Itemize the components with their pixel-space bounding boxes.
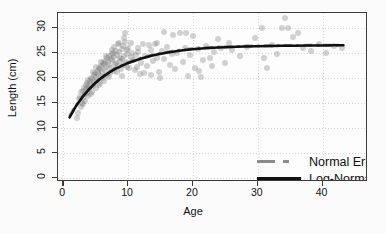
x-tick-label: 0 xyxy=(50,186,74,198)
curve-log-normal-errors xyxy=(70,45,344,117)
x-tick-label: 40 xyxy=(310,186,334,198)
legend: Normal Errors Log-Normal Errors xyxy=(257,153,367,181)
legend-item-normal-errors: Normal Errors xyxy=(257,153,367,170)
legend-key-dash-dot-icon xyxy=(257,156,301,168)
legend-label-normal-errors: Normal Errors xyxy=(309,155,367,169)
curve-normal-errors xyxy=(70,45,344,116)
x-tick-label: 20 xyxy=(180,186,204,198)
legend-key-solid-icon xyxy=(257,173,301,182)
x-tick-label: 10 xyxy=(115,186,139,198)
y-tick-label: 20 xyxy=(35,69,47,83)
y-tick-label: 10 xyxy=(35,119,47,133)
plot-area: Normal Errors Log-Normal Errors xyxy=(57,12,367,181)
legend-label-log-normal-errors: Log-Normal Errors xyxy=(309,172,367,182)
x-tick-label: 30 xyxy=(245,186,269,198)
y-tick-label: 15 xyxy=(35,94,47,108)
legend-item-log-normal-errors: Log-Normal Errors xyxy=(257,170,367,181)
y-tick-label: 5 xyxy=(35,144,47,158)
chart-figure: Length (cm) 051015202530 010203040 Age N… xyxy=(0,0,386,234)
y-tick-label: 25 xyxy=(35,44,47,58)
y-tick-label: 30 xyxy=(35,19,47,33)
x-axis-label: Age xyxy=(0,205,386,217)
y-axis-label: Length (cm) xyxy=(2,50,20,130)
y-tick-label: 0 xyxy=(35,169,47,183)
